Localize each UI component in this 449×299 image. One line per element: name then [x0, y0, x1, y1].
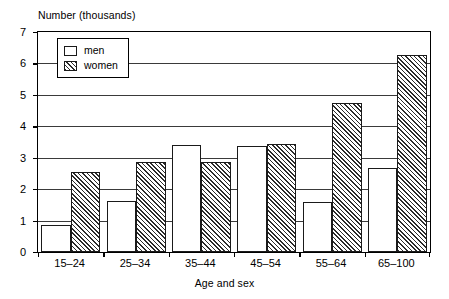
y-axis-tick-label: 6	[20, 58, 26, 69]
y-axis-tick: 7	[33, 32, 38, 33]
legend-label: women	[84, 60, 118, 71]
y-axis-tick: 4	[33, 126, 38, 127]
x-axis-tick-label: 45–54	[250, 258, 281, 269]
x-axis-tick	[38, 252, 39, 257]
x-axis-tick	[429, 252, 430, 257]
y-axis-tick: 1	[33, 221, 38, 222]
y-axis-tick: 6	[33, 63, 38, 64]
y-axis-title: Number (thousands)	[38, 9, 136, 21]
bar-men-45-54	[237, 146, 267, 252]
chart-legend: menwomen	[57, 38, 129, 78]
gridline	[38, 126, 430, 127]
y-axis-tick-label: 5	[20, 89, 26, 100]
y-axis-tick-label: 4	[20, 121, 26, 132]
x-axis-tick	[103, 252, 104, 257]
bar-women-45-54	[267, 144, 297, 252]
bar-men-35-44	[172, 145, 202, 252]
x-axis-tick-label: 25–34	[120, 258, 151, 269]
x-axis-tick	[169, 252, 170, 257]
bar-women-55-64	[332, 103, 362, 252]
legend-swatch-women-icon	[64, 61, 77, 71]
y-axis-tick: 3	[33, 158, 38, 159]
y-axis-tick-label: 7	[20, 27, 26, 38]
x-axis-tick-label: 15–24	[54, 258, 85, 269]
bar-men-55-64	[303, 202, 333, 252]
y-axis-tick-label: 2	[20, 184, 26, 195]
y-axis-tick-label: 3	[20, 152, 26, 163]
x-axis-title: Age and sex	[0, 277, 449, 289]
bar-women-65-100	[397, 55, 427, 252]
y-axis-tick-label: 0	[20, 247, 26, 258]
bar-men-65-100	[368, 168, 398, 252]
x-axis-tick	[365, 252, 366, 257]
gridline	[38, 158, 430, 159]
bar-men-15-24	[41, 225, 71, 252]
bar-women-25-34	[136, 162, 166, 252]
x-axis-tick	[234, 252, 235, 257]
bar-men-25-34	[107, 201, 137, 252]
bar-women-15-24	[71, 172, 101, 252]
legend-item-men: men	[64, 43, 118, 58]
y-axis-tick-label: 1	[20, 215, 26, 226]
gridline	[38, 95, 430, 96]
legend-item-women: women	[64, 58, 118, 73]
legend-label: men	[84, 45, 104, 56]
y-axis-tick: 5	[33, 95, 38, 96]
x-axis-tick	[299, 252, 300, 257]
x-axis-tick-label: 55–64	[316, 258, 347, 269]
x-axis-tick-label: 65–100	[378, 258, 415, 269]
x-axis-tick-label: 35–44	[185, 258, 216, 269]
y-axis-tick: 2	[33, 189, 38, 190]
bar-women-35-44	[201, 162, 231, 253]
legend-swatch-men-icon	[64, 46, 77, 56]
chart-screenshot: Number (thousands) 01234567 15–2425–3435…	[0, 0, 449, 299]
